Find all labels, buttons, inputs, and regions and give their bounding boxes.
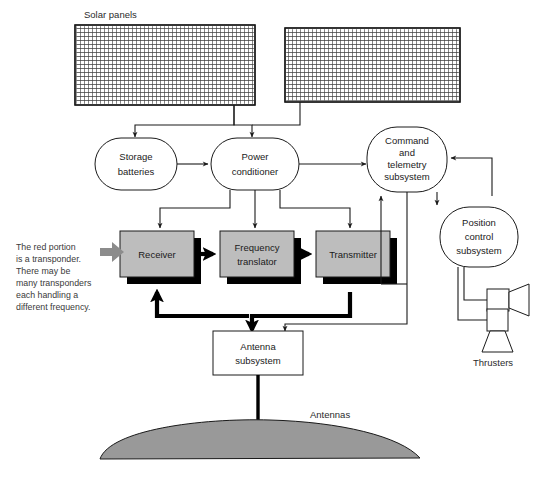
command-label-line4: subsystem	[384, 171, 429, 182]
annotation-line-3: There may be	[16, 266, 70, 276]
annotation-line-6: different frequency.	[16, 302, 91, 312]
conditioner-distribution-wiring	[160, 190, 350, 228]
solar-panel-left	[75, 25, 255, 105]
antenna-dish-group: Antennas	[100, 409, 420, 459]
thrusters-label: Thrusters	[473, 357, 513, 368]
node-storage-batteries[interactable]: Storage batteries	[95, 138, 177, 190]
node-transmitter[interactable]: Transmitter	[316, 231, 397, 284]
frequency-translator-label-line2: translator	[237, 256, 277, 267]
solar-panels-group: Solar panels	[75, 9, 460, 105]
wire-position-to-thruster-vertical	[458, 267, 487, 320]
antenna-subsystem-label-line1: Antenna	[240, 341, 276, 352]
wire-right-panel-to-bus	[252, 102, 300, 125]
annotation-line-5: each handling a	[16, 290, 78, 300]
wire-position-to-thruster-horizontal	[464, 267, 488, 300]
node-power-conditioner[interactable]: Power conditioner	[211, 138, 299, 190]
annotation-line-1: The red portion	[16, 242, 76, 252]
thruster-vertical	[482, 309, 513, 352]
transponder-group: Receiver Frequency translator Transmitte…	[120, 231, 397, 284]
transponder-annotation: The red portion is a transponder. There …	[16, 242, 124, 312]
position-label-line2: control	[465, 231, 494, 242]
storage-batteries-label-line1: Storage	[119, 151, 152, 162]
annotation-line-4: many transponders	[16, 278, 92, 288]
solar-panel-right	[285, 28, 460, 102]
node-receiver[interactable]: Receiver	[120, 231, 201, 284]
power-conditioner-label-line1: Power	[242, 151, 269, 162]
wire-conditioner-to-transmitter	[280, 190, 350, 228]
solar-panels-label: Solar panels	[84, 9, 137, 20]
receiver-label: Receiver	[138, 249, 176, 260]
node-command-telemetry-subsystem[interactable]: Command and telemetry subsystem	[367, 127, 447, 192]
satellite-block-diagram: Solar panels Storage batteries Power con…	[0, 0, 544, 478]
annotation-line-2: is a transponder.	[16, 254, 81, 264]
command-label-line3: telemetry	[387, 159, 426, 170]
wire-left-panel-to-conditioner	[234, 105, 252, 137]
command-label-line1: Command	[385, 135, 429, 146]
wire-antenna-to-receiver	[157, 292, 249, 316]
antenna-dish	[100, 420, 420, 459]
antenna-subsystem-label-line2: subsystem	[235, 355, 280, 366]
power-conditioner-label-line2: conditioner	[232, 166, 278, 177]
transmitter-label: Transmitter	[329, 249, 377, 260]
power-bus-wiring	[135, 102, 300, 137]
wire-conditioner-to-receiver	[160, 190, 230, 228]
frequency-translator-label-line1: Frequency	[235, 242, 280, 253]
node-position-control-subsystem[interactable]: Position control subsystem	[440, 207, 518, 267]
position-label-line3: subsystem	[456, 245, 501, 256]
antennas-label: Antennas	[310, 409, 350, 420]
wire-left-panel-to-batteries	[135, 105, 234, 137]
position-label-line1: Position	[462, 217, 496, 228]
command-label-line2: and	[399, 147, 415, 158]
diagram-canvas: Solar panels Storage batteries Power con…	[0, 0, 544, 478]
node-antenna-subsystem[interactable]: Antenna subsystem	[213, 331, 303, 375]
storage-batteries-label-line2: batteries	[118, 166, 155, 177]
thrusters-group: Thrusters	[458, 267, 529, 368]
node-frequency-translator[interactable]: Frequency translator	[220, 231, 301, 284]
wire-position-to-command	[451, 158, 492, 196]
